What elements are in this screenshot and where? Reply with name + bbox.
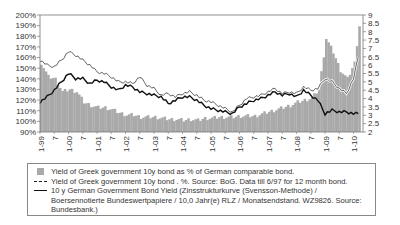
svg-text:7: 7 — [279, 135, 288, 140]
svg-text:2: 2 — [368, 128, 373, 137]
svg-text:7: 7 — [165, 135, 174, 140]
svg-text:1-99: 1-99 — [37, 135, 46, 152]
svg-text:90%: 90% — [20, 128, 36, 137]
svg-text:1-05: 1-05 — [208, 135, 217, 152]
legend-item-german-yield: 10 y German Government Bond Yield (Zinss… — [34, 186, 369, 215]
svg-text:7: 7 — [193, 135, 202, 140]
svg-text:7: 7 — [51, 135, 60, 140]
legend-item-greek-yield: Yield of Greek government 10y bond . %. … — [34, 177, 369, 187]
svg-text:160%: 160% — [16, 53, 36, 62]
svg-text:1-07: 1-07 — [265, 135, 274, 152]
svg-text:1-00: 1-00 — [65, 135, 74, 152]
svg-text:180%: 180% — [16, 32, 36, 41]
svg-text:7: 7 — [250, 135, 259, 140]
x-axis: 1-9971-0071-0171-0271-0371-0471-0571-067… — [37, 132, 360, 152]
svg-text:7: 7 — [108, 135, 117, 140]
svg-text:100%: 100% — [16, 117, 36, 126]
svg-text:1-10: 1-10 — [350, 135, 359, 152]
svg-text:7: 7 — [222, 135, 231, 140]
svg-text:170%: 170% — [16, 43, 36, 52]
svg-text:1-06: 1-06 — [236, 135, 245, 152]
svg-text:150%: 150% — [16, 64, 36, 73]
svg-text:140%: 140% — [16, 75, 36, 84]
gray-square-icon — [34, 167, 48, 176]
legend-label: Yield of Greek government 10y bond as % … — [51, 167, 369, 177]
svg-text:190%: 190% — [16, 21, 36, 30]
svg-text:1-09: 1-09 — [322, 135, 331, 152]
svg-text:7: 7 — [79, 135, 88, 140]
dashed-line-icon — [34, 177, 48, 186]
left-axis: 200%190%180%170%160%150%140%130%120%110%… — [16, 11, 40, 137]
legend-label: 10 y German Government Bond Yield (Zinss… — [51, 186, 369, 215]
svg-text:110%: 110% — [16, 107, 36, 116]
svg-text:1-04: 1-04 — [179, 135, 188, 152]
svg-text:1-02: 1-02 — [122, 135, 131, 152]
legend-item-ratio-bars: Yield of Greek government 10y bond as % … — [34, 167, 369, 177]
svg-text:1-08: 1-08 — [293, 135, 302, 152]
solid-line-icon — [34, 186, 48, 195]
right-axis: 98.587.576.565.554.543.532.52 — [363, 11, 380, 137]
svg-text:120%: 120% — [16, 96, 36, 105]
svg-text:7: 7 — [336, 135, 345, 140]
chart-canvas: 200%190%180%170%160%150%140%130%120%110%… — [0, 0, 400, 160]
svg-text:130%: 130% — [16, 85, 36, 94]
svg-text:1-01: 1-01 — [94, 135, 103, 152]
ratio-bars — [40, 26, 361, 132]
svg-text:200%: 200% — [16, 11, 36, 20]
legend: Yield of Greek government 10y bond as % … — [27, 163, 376, 216]
legend-label: Yield of Greek government 10y bond . %. … — [51, 177, 369, 187]
svg-text:7: 7 — [307, 135, 316, 140]
svg-text:1-03: 1-03 — [151, 135, 160, 152]
svg-text:7: 7 — [136, 135, 145, 140]
